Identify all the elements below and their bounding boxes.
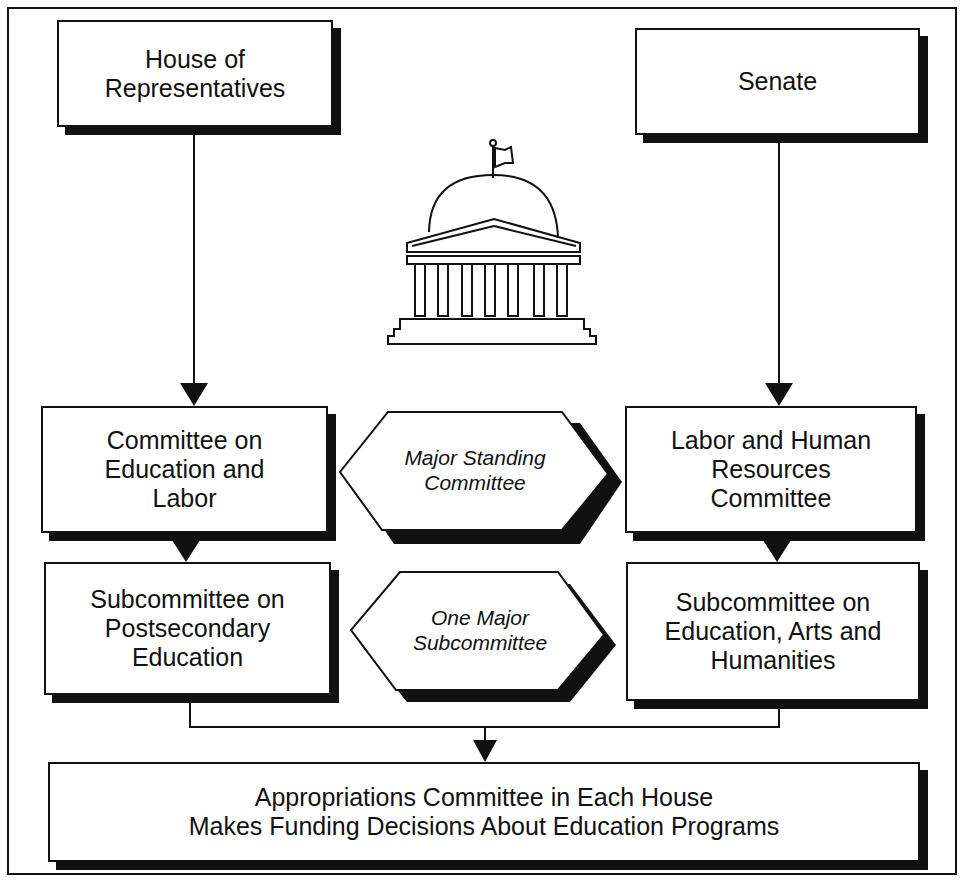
house-label: House of Representatives: [105, 45, 286, 103]
capitol-building-icon: [388, 140, 596, 344]
house-subcommittee-box: Subcommittee on Postsecondary Education: [44, 562, 331, 695]
appropriations-label: Appropriations Committee in Each House M…: [189, 783, 780, 841]
appropriations-box: Appropriations Committee in Each House M…: [48, 762, 920, 862]
senate-subcommittee-box: Subcommittee on Education, Arts and Huma…: [626, 562, 920, 701]
senate-subcommittee-label: Subcommittee on Education, Arts and Huma…: [665, 588, 882, 675]
senate-box: Senate: [635, 28, 920, 135]
senate-committee-box: Labor and Human Resources Committee: [625, 406, 917, 533]
senate-label: Senate: [738, 67, 817, 96]
house-committee-box: Committee on Education and Labor: [41, 406, 328, 533]
house-committee-label: Committee on Education and Labor: [105, 426, 265, 513]
one-subcommittee-label: One Major Subcommittee: [370, 590, 590, 670]
senate-committee-label: Labor and Human Resources Committee: [671, 426, 871, 513]
house-subcommittee-label: Subcommittee on Postsecondary Education: [90, 585, 285, 672]
house-box: House of Representatives: [57, 20, 333, 127]
standing-committee-label: Major Standing Committee: [360, 430, 590, 510]
